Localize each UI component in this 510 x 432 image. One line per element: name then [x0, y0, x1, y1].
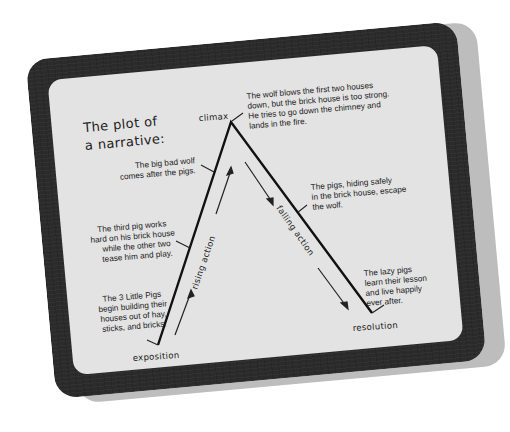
tick-climax	[232, 113, 243, 121]
label-climax: climax	[198, 111, 228, 123]
diagram-stage: The plot of a narrative:	[0, 0, 510, 432]
tick-falling	[297, 205, 307, 213]
tick-exposition	[147, 340, 158, 345]
note-resolution: The lazy pigs learn their lesson and liv…	[363, 264, 429, 308]
svg-text:ever after.: ever after.	[366, 296, 403, 308]
tick-rising-1	[176, 241, 190, 248]
arrow-head-icon	[341, 302, 348, 309]
label-resolution: resolution	[352, 320, 398, 333]
arrow-head-icon	[227, 167, 233, 175]
note-rising-1: The third pig works hard on his brick ho…	[89, 219, 177, 265]
svg-text:comes after the pigs.: comes after the pigs.	[120, 166, 196, 182]
tick-rising-2	[201, 165, 214, 172]
arrow-head-icon	[188, 290, 194, 298]
note-rising-2: The big bad wolf comes after the pigs.	[119, 156, 197, 182]
note-falling: The pigs, hiding safely in the brick hou…	[310, 175, 408, 212]
label-rising-action: rising action	[189, 234, 217, 290]
plot-diagram: The plot of a narrative:	[0, 0, 510, 432]
plot-line	[158, 122, 372, 345]
svg-text:the wolf.: the wolf.	[312, 200, 343, 212]
title-line-2: a narrative:	[84, 131, 165, 153]
label-exposition: exposition	[132, 350, 179, 363]
note-exposition: The 3 Little Pigs begin building their h…	[97, 289, 169, 334]
arrow-head-icon	[267, 198, 273, 205]
callout-ticks	[147, 113, 384, 345]
note-climax: The wolf blows the first two houses down…	[246, 79, 391, 130]
